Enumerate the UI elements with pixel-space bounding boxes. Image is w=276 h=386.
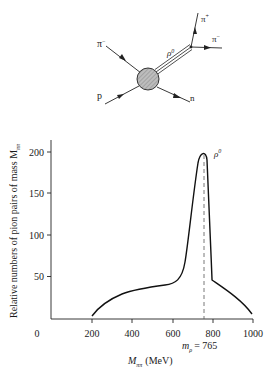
x-tick-label: 200 xyxy=(85,328,100,339)
outgoing-neutron-line xyxy=(157,87,190,102)
x-tick-label: 600 xyxy=(166,328,181,339)
distribution-curve xyxy=(92,154,252,316)
arrow-icon xyxy=(193,27,197,34)
scattering-diagram: π− p n ρ0 π+ π− xyxy=(97,13,222,104)
x-tick-label: 400 xyxy=(125,328,140,339)
y-tick-label: 150 xyxy=(29,188,44,199)
figure: π− p n ρ0 π+ π− 50 100 150 200 0 xyxy=(0,0,276,386)
x-tick-label: 1000 xyxy=(243,328,263,339)
x-ticks: 0 200 400 600 800 1000 xyxy=(35,319,264,339)
peak-label: ρ0 xyxy=(213,148,221,159)
incoming-pion-label: π− xyxy=(97,38,106,49)
decay-pion-minus-label: π− xyxy=(212,33,221,44)
y-ticks: 50 100 150 200 xyxy=(29,147,51,283)
resonance-line xyxy=(157,50,192,75)
y-tick-label: 50 xyxy=(34,271,44,282)
arrow-icon xyxy=(173,93,181,98)
outgoing-neutron-label: n xyxy=(190,93,195,103)
y-tick-label: 100 xyxy=(29,230,44,241)
interaction-blob xyxy=(137,68,159,90)
mass-distribution-chart: 50 100 150 200 0 200 400 600 800 1000 ρ0… xyxy=(8,140,263,368)
arrow-icon xyxy=(119,54,126,61)
decay-pion-plus-label: π+ xyxy=(201,13,210,24)
arrow-icon xyxy=(117,94,124,99)
x-tick-label: 0 xyxy=(35,328,40,339)
incoming-proton-label: p xyxy=(97,90,102,101)
mass-marker-label: mρ= 765 xyxy=(182,340,217,353)
x-axis-label: Mππ(MeV) xyxy=(127,355,173,368)
y-axis-label: Relative numbers of pion pairs of mass M… xyxy=(8,143,21,318)
y-tick-label: 200 xyxy=(29,147,44,158)
arrow-icon xyxy=(204,45,211,50)
x-tick-label: 800 xyxy=(206,328,221,339)
